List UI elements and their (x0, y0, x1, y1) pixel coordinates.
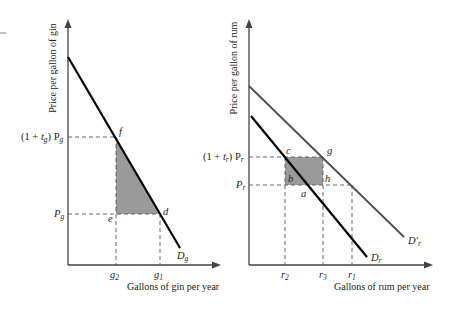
rum-base-price-label: Pr (235, 179, 245, 192)
gin-y-axis-label: Price per gallon of gin (47, 23, 58, 112)
gin-panel: Price per gallon of gin Gallons of gin p… (21, 19, 221, 292)
gin-x-axis-arrow-icon (212, 262, 221, 269)
gin-y-axis-arrow-icon (65, 19, 72, 28)
rum-demand-curve (251, 116, 367, 257)
gin-point-f: f (119, 126, 124, 137)
rum-point-a: a (301, 188, 306, 199)
rum-demand-label: Dr (370, 252, 382, 265)
rum-point-c: c (286, 145, 291, 156)
tax-incidence-diagram: Price per gallon of gin Gallons of gin p… (0, 0, 449, 312)
gin-point-e: e (108, 213, 113, 224)
rum-shifted-demand-label: D′r (407, 235, 421, 248)
rum-qty-label-r2: r2 (281, 269, 289, 282)
gin-base-price-label: Pg (53, 208, 64, 221)
rum-y-axis-arrow-icon (246, 19, 253, 28)
gin-demand-label: Dg (176, 250, 189, 263)
rum-panel: Price per gallon of rum Gallons of rum p… (203, 19, 433, 292)
gin-x-axis-label: Gallons of gin per year (127, 281, 220, 292)
gin-qty-label-g2: g2 (110, 269, 119, 282)
rum-qty-label-r3: r3 (319, 269, 327, 282)
rum-y-axis-label: Price per gallon of rum (228, 21, 239, 114)
rum-shifted-demand-curve (249, 86, 404, 237)
rum-x-axis-label: Gallons of rum per year (334, 281, 430, 292)
rum-point-g: g (327, 145, 332, 156)
rum-point-h: h (325, 173, 330, 184)
gin-taxed-price-label: (1 + tg) Pg (21, 131, 64, 144)
rum-x-axis-arrow-icon (424, 262, 433, 269)
rum-point-b: b (288, 173, 293, 184)
rum-taxed-price-label: (1 + tr) Pr (203, 151, 244, 164)
gin-point-d: d (163, 206, 169, 217)
gin-demand-curve (68, 57, 180, 248)
